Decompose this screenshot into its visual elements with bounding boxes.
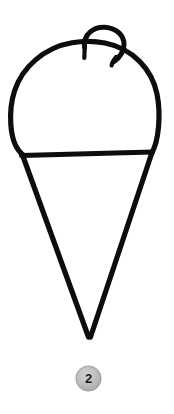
swirl-tail-right [112,57,116,66]
cone-left-edge [23,155,89,337]
ice-cream-cone-illustration [0,0,174,414]
swirl-tail-left [84,46,85,58]
badge-label: 2 [75,365,102,392]
drawing-canvas: 2 [0,0,174,414]
cone-right-edge [91,153,153,338]
number-badge[interactable]: 2 [75,365,102,392]
rim-line [22,152,153,156]
